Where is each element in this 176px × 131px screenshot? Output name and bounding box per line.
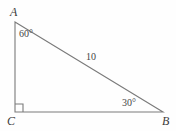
right-triangle-figure: A B C 60° 30° 10 [0,0,176,131]
side-label-hypotenuse: 10 [86,52,96,62]
vertex-label-c: C [7,115,15,127]
vertex-label-a: A [10,6,17,18]
triangle-outline [15,22,163,112]
angle-label-a: 60° [19,29,33,39]
right-angle-square-icon [15,104,23,112]
vertex-label-b: B [162,115,169,127]
triangle-graphic [0,0,176,131]
angle-label-b: 30° [122,98,136,108]
